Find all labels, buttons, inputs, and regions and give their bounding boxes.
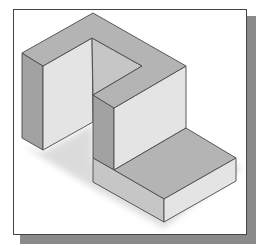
isometric-drawing bbox=[0, 0, 266, 251]
left-arm-side-face bbox=[22, 53, 43, 150]
